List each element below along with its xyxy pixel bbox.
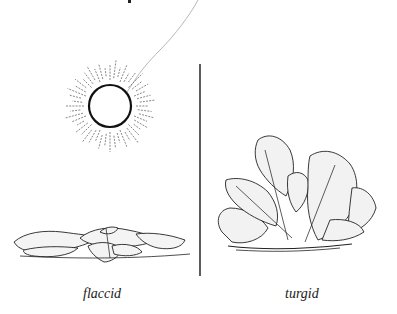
- sun-ray: [137, 95, 151, 99]
- turgid-label: turgid: [285, 286, 319, 302]
- sun-ray: [124, 73, 129, 82]
- sun-ray: [128, 124, 139, 135]
- flaccid-label: flaccid: [83, 286, 121, 302]
- upright-plant: [218, 136, 376, 251]
- sun-ray: [72, 101, 82, 102]
- sun-ray: [75, 123, 88, 133]
- sun-ray: [127, 128, 138, 142]
- sun-ray: [69, 95, 81, 98]
- sun-ray: [68, 88, 87, 96]
- sun-icon: [66, 60, 156, 152]
- sun-ray: [120, 65, 127, 82]
- sun-ray: [128, 74, 142, 88]
- sun-ray: [82, 130, 92, 143]
- sun-ray: [75, 86, 85, 92]
- sun-ray: [114, 60, 116, 78]
- sun-ray: [140, 100, 156, 102]
- wilted-plant: [14, 227, 190, 262]
- sun-ray: [77, 121, 84, 125]
- sun-ray: [118, 67, 121, 77]
- sun-ray: [138, 110, 152, 112]
- sun-ray: [114, 136, 116, 148]
- sun-ray: [95, 69, 100, 82]
- sun-ray: [70, 110, 80, 111]
- sun-ray: [82, 124, 92, 134]
- sun-ray: [96, 130, 101, 141]
- sun-ray: [105, 134, 107, 146]
- sun-ray: [66, 113, 83, 118]
- sun-ray: [134, 124, 140, 129]
- sun-ray: [105, 68, 106, 76]
- illustration: [0, 0, 397, 314]
- sun-ray: [139, 114, 154, 118]
- sun-ray: [117, 133, 120, 143]
- top-mark: [128, 0, 131, 3]
- sun-ray: [99, 135, 103, 149]
- sun-ray: [89, 130, 96, 142]
- sun-ray: [134, 116, 147, 121]
- sun-ray: [99, 64, 103, 80]
- sun-ray: [120, 130, 127, 147]
- sun-ray: [125, 132, 130, 141]
- sun-ray: [134, 92, 145, 97]
